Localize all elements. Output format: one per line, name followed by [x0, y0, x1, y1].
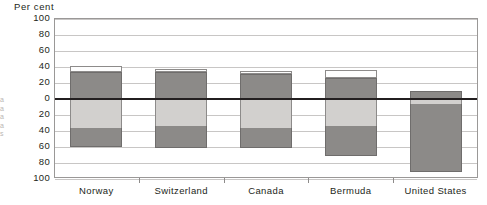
chart-container: aaaas Per cent 10080604020020406080100 N… [0, 0, 487, 205]
bar-segment-bottom-dark [155, 126, 207, 148]
bar-segment-upper-dark [70, 72, 122, 98]
bar-segment-lower-light [240, 98, 292, 128]
x-category-label: Canada [248, 185, 284, 196]
bar-segment-upper-dark [155, 72, 207, 98]
bar-segment-upper-dark [325, 78, 377, 98]
y-tick-label: 80 [2, 28, 50, 39]
bar-segment-lower-light [70, 98, 122, 128]
x-tick [139, 178, 140, 183]
y-tick-label: 100 [2, 12, 50, 23]
y-tick-label: 60 [2, 44, 50, 55]
bar-segment-bottom-dark [240, 128, 292, 147]
x-tick [308, 178, 309, 183]
bar-segment-lower-light [325, 98, 377, 126]
y-tick-label: 0 [2, 92, 50, 103]
y-tick-label: 40 [2, 124, 50, 135]
bar-segment-lower-light [155, 98, 207, 126]
x-category-label: Switzerland [154, 185, 208, 196]
y-tick-label: 100 [2, 172, 50, 183]
x-tick [393, 178, 394, 183]
y-axis-unit-label: Per cent [14, 1, 54, 12]
y-tick-label: 40 [2, 60, 50, 71]
bar-segment-bottom-dark [325, 126, 377, 156]
x-axis-category-labels: NorwaySwitzerlandCanadaBermudaUnited Sta… [54, 185, 478, 201]
bar-segment-bottom-dark [70, 128, 122, 147]
x-category-label: Norway [79, 185, 114, 196]
bar-segment-upper-dark [410, 91, 462, 98]
y-tick-label: 20 [2, 108, 50, 119]
bar-segment-bottom-dark [410, 104, 462, 171]
y-tick-label: 60 [2, 140, 50, 151]
x-tick [224, 178, 225, 183]
bar-segment-upper-dark [240, 74, 292, 98]
bar-segment-top-white [325, 70, 377, 78]
x-category-label: United States [404, 185, 466, 196]
y-tick-label: 80 [2, 156, 50, 167]
y-axis-tick-labels: 10080604020020406080100 [0, 18, 50, 178]
zero-baseline [55, 98, 477, 100]
x-axis-ticks [54, 178, 478, 184]
x-category-label: Bermuda [330, 185, 371, 196]
y-tick-label: 20 [2, 76, 50, 87]
